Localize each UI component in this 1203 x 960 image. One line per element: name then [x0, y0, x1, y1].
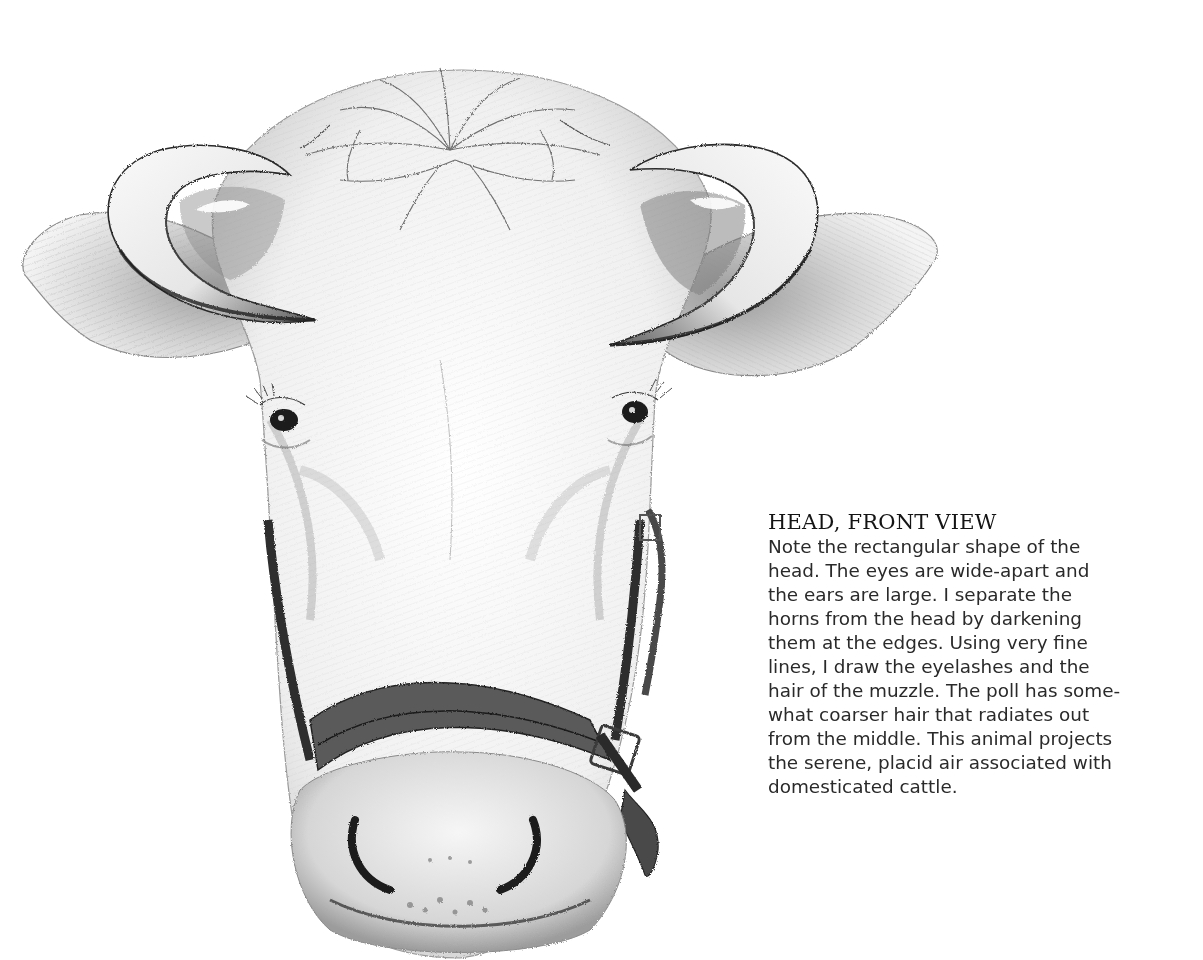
- caption-line: head. The eyes are wide-apart and: [768, 559, 1203, 583]
- caption-line: lines, I draw the eyelashes and the: [768, 655, 1203, 679]
- caption-line: the serene, placid air associated with: [768, 751, 1203, 775]
- caption-title: HEAD, FRONT VIEW: [768, 509, 1203, 535]
- caption-line: the ears are large. I separate the: [768, 583, 1203, 607]
- caption-line: Note the rectangular shape of the: [768, 535, 1203, 559]
- caption-body: Note the rectangular shape of the head. …: [768, 535, 1203, 799]
- caption: HEAD, FRONT VIEW Note the rectangular sh…: [768, 509, 1203, 799]
- caption-line: what coarser hair that radiates out: [768, 703, 1203, 727]
- caption-line: hair of the muzzle. The poll has some-: [768, 679, 1203, 703]
- caption-line: horns from the head by darkening: [768, 607, 1203, 631]
- caption-line: domesticated cattle.: [768, 775, 1203, 799]
- cow-head-illustration: [0, 0, 960, 960]
- book-page: HEAD, FRONT VIEW Note the rectangular sh…: [0, 0, 1203, 960]
- caption-line: from the middle. This animal projects: [768, 727, 1203, 751]
- cow-head-drawing: [0, 0, 960, 960]
- caption-line: them at the edges. Using very fine: [768, 631, 1203, 655]
